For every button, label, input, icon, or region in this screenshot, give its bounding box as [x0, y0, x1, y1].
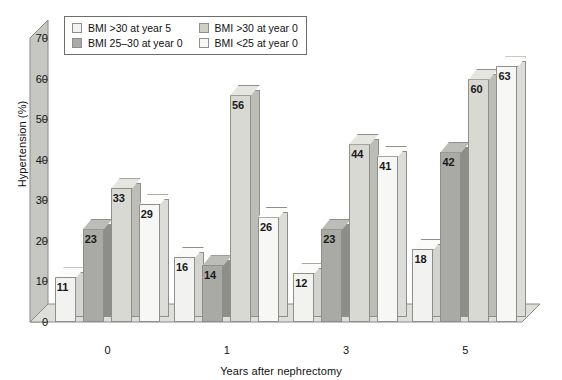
bar-value-label: 26: [260, 221, 294, 233]
bar[interactable]: 18: [412, 249, 433, 322]
bar-value-label: 41: [379, 160, 413, 172]
legend-item[interactable]: BMI >30 at year 5: [72, 22, 183, 34]
legend-item[interactable]: BMI 25–30 at year 0: [72, 37, 183, 49]
bar-value-label: 56: [232, 99, 266, 111]
bar-front-face: [230, 95, 251, 322]
bar-front-face: [349, 144, 370, 323]
bar[interactable]: 56: [230, 95, 251, 322]
legend-swatch-icon: [72, 23, 82, 33]
bar-front-face: [496, 66, 517, 322]
bar-group: 12234441: [293, 38, 407, 322]
x-tick-label: 1: [197, 344, 257, 356]
bar[interactable]: 42: [440, 152, 461, 322]
legend-label: BMI >30 at year 5: [88, 22, 171, 34]
bar[interactable]: 26: [258, 217, 279, 322]
x-tick-label: 5: [435, 344, 495, 356]
bar-group: 11233329: [55, 38, 169, 322]
y-tick-mark: [43, 322, 48, 323]
legend-swatch-icon: [72, 38, 82, 48]
x-axis-title: Years after nephrectomy: [0, 365, 562, 377]
bar[interactable]: 60: [468, 79, 489, 322]
legend-label: BMI 25–30 at year 0: [88, 37, 183, 49]
bar[interactable]: 11: [55, 277, 76, 322]
legend-item[interactable]: BMI >30 at year 0: [199, 22, 298, 34]
bar-side-face: [398, 151, 407, 317]
bar[interactable]: 29: [139, 204, 160, 322]
chart-legend: BMI >30 at year 5BMI >30 at year 0BMI 25…: [64, 16, 307, 55]
y-axis-title: Hypertension (%): [16, 64, 28, 224]
bar-group: 16145626: [174, 38, 288, 322]
bar[interactable]: 63: [496, 66, 517, 322]
legend-item[interactable]: BMI <25 at year 0: [199, 37, 298, 49]
bar-front-face: [468, 79, 489, 322]
bar-front-face: [377, 156, 398, 322]
bar[interactable]: 23: [321, 229, 342, 322]
x-tick-label: 3: [316, 344, 376, 356]
legend-swatch-icon: [199, 38, 209, 48]
bar-group: 18426063: [412, 38, 526, 322]
bar[interactable]: 23: [83, 229, 104, 322]
bar-front-face: [440, 152, 461, 322]
x-tick-label: 0: [78, 344, 138, 356]
bar[interactable]: 16: [174, 257, 195, 322]
bar-value-label: 63: [498, 70, 532, 82]
bar[interactable]: 33: [111, 188, 132, 322]
bar-front-face: [139, 204, 160, 322]
bar-front-face: [111, 188, 132, 322]
bar[interactable]: 14: [202, 265, 223, 322]
bar[interactable]: 12: [293, 273, 314, 322]
bar-side-face: [517, 61, 526, 317]
legend-label: BMI <25 at year 0: [215, 37, 298, 49]
bar[interactable]: 41: [377, 156, 398, 322]
legend-label: BMI >30 at year 0: [215, 22, 298, 34]
bars-container: 11233329161456261223444118426063: [48, 38, 525, 322]
legend-swatch-icon: [199, 23, 209, 33]
x-axis: 0135: [0, 336, 562, 356]
bar[interactable]: 44: [349, 144, 370, 323]
bar-value-label: 29: [141, 208, 175, 220]
bar-chart: 010203040506070 112333291614562612234441…: [0, 0, 562, 380]
